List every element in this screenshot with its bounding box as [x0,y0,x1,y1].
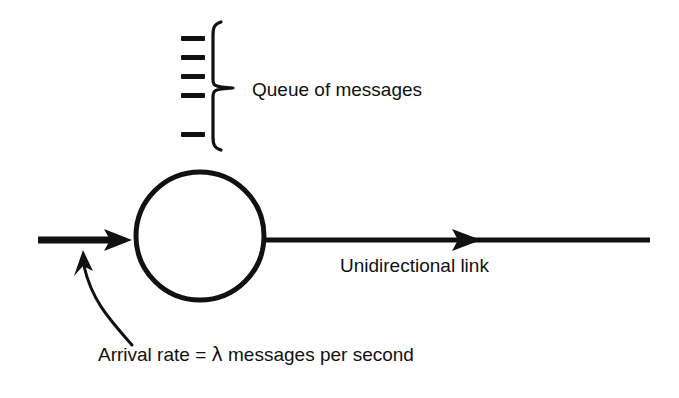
arrival-caption-prefix: Arrival rate = [98,344,212,365]
diagram-canvas: Queue of messages Unidirectional link Ar… [0,0,679,398]
canvas-background [0,0,679,398]
link-label: Unidirectional link [340,255,489,276]
queue-message-dash [181,36,205,41]
arrival-caption-suffix: messages per second [223,344,414,365]
queue-message-dash [181,74,205,79]
queue-message-dash [181,132,205,137]
queue-message-dash [181,93,205,98]
arrival-rate-caption: Arrival rate = λ messages per second [98,343,414,365]
queue-message-dash [181,55,205,60]
queue-label: Queue of messages [252,79,422,100]
lambda-symbol: λ [212,343,223,365]
queueing-model-diagram: Queue of messages Unidirectional link Ar… [0,0,679,398]
